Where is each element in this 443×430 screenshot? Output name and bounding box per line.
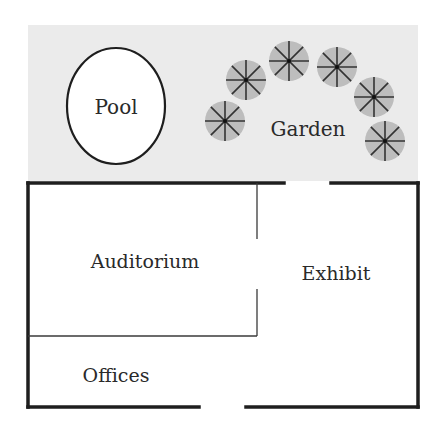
tree-icon xyxy=(226,60,266,100)
tree-icon xyxy=(354,77,394,117)
tree-icon xyxy=(317,47,357,87)
offices-room[interactable] xyxy=(30,338,256,405)
pool-label: Pool xyxy=(94,95,137,119)
tree-icon xyxy=(205,101,245,141)
exhibit-room[interactable] xyxy=(259,185,416,405)
tree-icon xyxy=(269,41,309,81)
auditorium-room[interactable] xyxy=(30,185,256,335)
floor-plan: Pool Garden Auditorium Exhibit Offices xyxy=(0,0,443,430)
tree-icon xyxy=(365,121,405,161)
garden-label: Garden xyxy=(271,117,346,141)
